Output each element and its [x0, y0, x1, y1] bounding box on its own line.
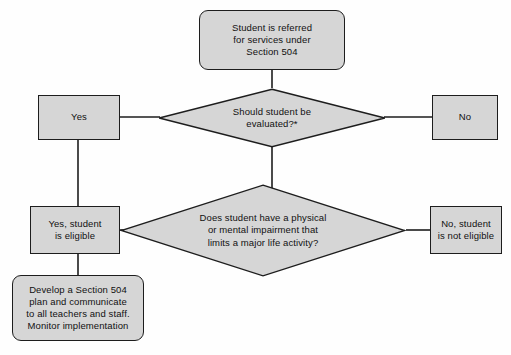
- node-no-eligible[interactable]: No, student is not eligible: [430, 206, 502, 254]
- node-yes-eligible-label: Yes, student is eligible: [45, 218, 104, 242]
- node-no-evaluate-label: No: [456, 111, 474, 123]
- node-yes-evaluate[interactable]: Yes: [38, 95, 120, 140]
- flowchart-canvas: Student is referred for services under S…: [0, 0, 511, 355]
- node-no-eligible-label: No, student is not eligible: [435, 218, 497, 242]
- node-impairment-question[interactable]: Does student have a physical or mental i…: [120, 184, 406, 277]
- node-develop-plan-label: Develop a Section 504 plan and communica…: [23, 284, 132, 333]
- node-impairment-question-label: Does student have a physical or mental i…: [197, 212, 330, 249]
- node-yes-eligible[interactable]: Yes, student is eligible: [30, 206, 120, 254]
- node-should-evaluate[interactable]: Should student be evaluated?*: [158, 88, 386, 148]
- node-yes-evaluate-label: Yes: [68, 111, 90, 123]
- node-referral-label: Student is referred for services under S…: [229, 22, 315, 59]
- node-should-evaluate-label: Should student be evaluated?*: [230, 106, 314, 130]
- node-referral[interactable]: Student is referred for services under S…: [199, 10, 345, 70]
- node-develop-plan[interactable]: Develop a Section 504 plan and communica…: [12, 275, 144, 341]
- node-no-evaluate[interactable]: No: [432, 95, 498, 140]
